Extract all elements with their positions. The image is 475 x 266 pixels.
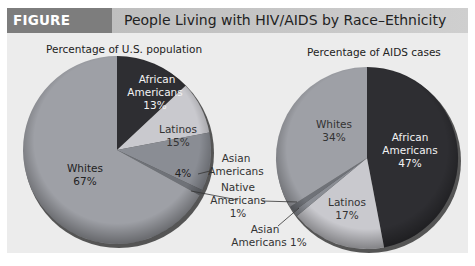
right-label-latinos-pct: 17% (335, 209, 358, 221)
right-label-aa-1: African (392, 131, 429, 143)
left-label-aa-2: Americans (127, 86, 182, 98)
left-label-whites: Whites (67, 162, 103, 174)
callout-asian-2: Americans (208, 165, 263, 177)
right-label-whites: Whites (316, 118, 352, 130)
pie-charts: African Americans 13% Latinos 15% 4% Whi… (0, 0, 475, 266)
left-pie (23, 56, 214, 248)
left-label-aa-1: African (139, 73, 176, 85)
right-label-latinos: Latinos (328, 196, 366, 208)
right-pie (276, 67, 461, 253)
callout-native-2: Americans (210, 194, 265, 206)
right-label-aa-2: Americans (382, 144, 437, 156)
callout-native-pct: 1% (230, 207, 247, 219)
right-label-whites-pct: 34% (322, 131, 345, 143)
left-label-latinos-pct: 15% (166, 136, 189, 148)
callout-native-1: Native (221, 181, 255, 193)
callout-asian-1: Asian (222, 152, 251, 164)
callout-asian-right-2: Americans 1% (231, 236, 306, 248)
left-pie-rim (23, 56, 211, 244)
right-label-aa-pct: 47% (398, 157, 421, 169)
left-label-aa-pct: 13% (143, 99, 166, 111)
right-pie-rim (276, 67, 458, 249)
left-label-asian-pct: 4% (175, 167, 192, 179)
callout-asian-right-1: Asian (251, 223, 280, 235)
asian-right-callout-line (278, 208, 299, 226)
left-label-latinos: Latinos (159, 123, 197, 135)
left-label-whites-pct: 67% (73, 175, 96, 187)
